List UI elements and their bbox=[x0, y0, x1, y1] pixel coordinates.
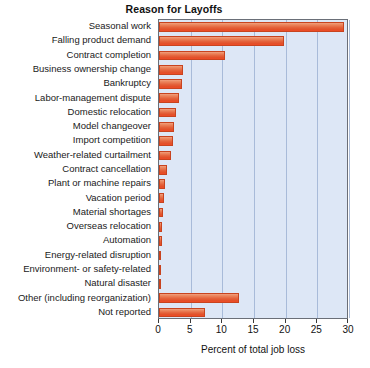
category-label: Falling product demand bbox=[0, 34, 151, 45]
bar bbox=[159, 22, 344, 32]
category-label: Energy-related disruption bbox=[0, 249, 151, 260]
category-label: Environment- or safety-related bbox=[0, 263, 151, 274]
bar bbox=[159, 108, 176, 118]
tick-mark bbox=[347, 319, 348, 323]
category-label: Automation bbox=[0, 234, 151, 245]
bar-row bbox=[159, 206, 347, 220]
bar-row bbox=[159, 163, 347, 177]
tick-label: 20 bbox=[279, 324, 290, 335]
bar-row bbox=[159, 177, 347, 191]
bar-row bbox=[159, 63, 347, 77]
bar bbox=[159, 293, 239, 303]
tick-label: 10 bbox=[216, 324, 227, 335]
bar-row bbox=[159, 20, 347, 34]
tick-label: 15 bbox=[247, 324, 258, 335]
bar-row bbox=[159, 291, 347, 305]
tick-mark bbox=[253, 319, 254, 323]
bar bbox=[159, 208, 163, 218]
category-label: Seasonal work bbox=[0, 20, 151, 31]
category-label: Plant or machine repairs bbox=[0, 177, 151, 188]
category-label: Business ownership change bbox=[0, 63, 151, 74]
category-label: Contract cancellation bbox=[0, 163, 151, 174]
tick-label: 0 bbox=[155, 324, 161, 335]
category-label: Import competition bbox=[0, 134, 151, 145]
bar bbox=[159, 193, 164, 203]
tick-mark bbox=[158, 319, 159, 323]
bar-row bbox=[159, 149, 347, 163]
bar-chart: Reason for Layoffs Seasonal workFalling … bbox=[0, 0, 370, 368]
bar-row bbox=[159, 134, 347, 148]
bars-layer bbox=[159, 20, 347, 318]
category-label: Model changeover bbox=[0, 120, 151, 131]
bar bbox=[159, 51, 225, 61]
bar bbox=[159, 65, 183, 75]
bar-row bbox=[159, 263, 347, 277]
category-label: Contract completion bbox=[0, 49, 151, 60]
tick-mark bbox=[316, 319, 317, 323]
tick-mark bbox=[285, 319, 286, 323]
bar bbox=[159, 79, 182, 89]
gridline bbox=[349, 20, 350, 318]
bar bbox=[159, 222, 162, 232]
bar bbox=[159, 165, 167, 175]
x-axis-title: Percent of total job loss bbox=[158, 344, 348, 355]
bar bbox=[159, 251, 161, 261]
bar bbox=[159, 122, 174, 132]
tick-mark bbox=[190, 319, 191, 323]
category-axis-labels: Seasonal workFalling product demandContr… bbox=[0, 19, 155, 319]
bar bbox=[159, 236, 162, 246]
category-label: Material shortages bbox=[0, 206, 151, 217]
chart-title: Reason for Layoffs bbox=[0, 3, 348, 15]
bar bbox=[159, 308, 205, 318]
tick-label: 5 bbox=[187, 324, 193, 335]
bar-row bbox=[159, 106, 347, 120]
plot-area bbox=[158, 19, 348, 319]
bar-row bbox=[159, 306, 347, 320]
bar-row bbox=[159, 91, 347, 105]
bar-row bbox=[159, 34, 347, 48]
category-label: Overseas relocation bbox=[0, 220, 151, 231]
bar bbox=[159, 36, 284, 46]
x-axis-tick-labels: 051015202530 bbox=[158, 324, 348, 338]
category-label: Weather-related curtailment bbox=[0, 149, 151, 160]
category-label: Vacation period bbox=[0, 192, 151, 203]
bar-row bbox=[159, 120, 347, 134]
category-label: Natural disaster bbox=[0, 277, 151, 288]
bar-row bbox=[159, 277, 347, 291]
category-label: Not reported bbox=[0, 306, 151, 317]
bar-row bbox=[159, 49, 347, 63]
tick-label: 25 bbox=[311, 324, 322, 335]
category-label: Other (including reorganization) bbox=[0, 292, 151, 303]
tick-label: 30 bbox=[342, 324, 353, 335]
bar bbox=[159, 265, 161, 275]
bar bbox=[159, 179, 165, 189]
bar-row bbox=[159, 191, 347, 205]
tick-mark bbox=[221, 319, 222, 323]
bar-row bbox=[159, 220, 347, 234]
bar-row bbox=[159, 234, 347, 248]
bar bbox=[159, 279, 161, 289]
bar-row bbox=[159, 77, 347, 91]
bar bbox=[159, 93, 179, 103]
category-label: Domestic relocation bbox=[0, 106, 151, 117]
category-label: Labor-management dispute bbox=[0, 92, 151, 103]
category-label: Bankruptcy bbox=[0, 77, 151, 88]
bar bbox=[159, 151, 171, 161]
bar bbox=[159, 136, 173, 146]
bar-row bbox=[159, 249, 347, 263]
